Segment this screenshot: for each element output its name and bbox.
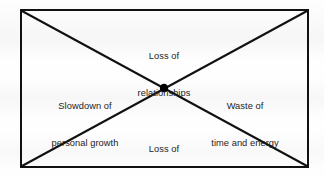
diagram-figure — [0, 0, 324, 177]
center-dot-icon — [160, 84, 168, 92]
diagram-canvas: Loss of relationships Slowdown of person… — [0, 0, 324, 177]
